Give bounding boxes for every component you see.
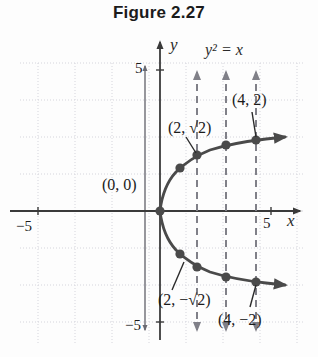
- x-tick-label-right: 5: [263, 215, 271, 231]
- point-lower-2: [192, 262, 201, 271]
- label-lower-two: (2, −√2): [158, 291, 210, 309]
- y-tick-label-top: 5: [135, 60, 143, 76]
- y-axis-label: y: [168, 35, 178, 54]
- point-origin: [155, 206, 164, 215]
- label-upper-four: (4, 2): [232, 91, 267, 109]
- leader-upper-two: [186, 137, 196, 153]
- label-lower-four: (4, −2): [218, 311, 262, 329]
- figure-container: Figure 2.27: [0, 0, 318, 357]
- y-tick-label-bottom: −5: [125, 317, 141, 333]
- point-lower-3: [221, 272, 230, 281]
- point-lower-1: [175, 249, 184, 258]
- graph-canvas: y x y² = x −5 5 5 −5 (0, 0) (2, √2) (4, …: [0, 0, 318, 357]
- equation-label: y² = x: [203, 41, 243, 59]
- x-axis-label: x: [286, 211, 295, 230]
- point-upper-1: [175, 163, 184, 172]
- leader-lower-two: [172, 262, 184, 290]
- label-upper-two: (2, √2): [168, 119, 211, 137]
- label-origin: (0, 0): [102, 176, 137, 194]
- point-upper-2: [192, 150, 201, 159]
- x-tick-label-left: −5: [16, 218, 32, 234]
- point-upper-3: [221, 140, 230, 149]
